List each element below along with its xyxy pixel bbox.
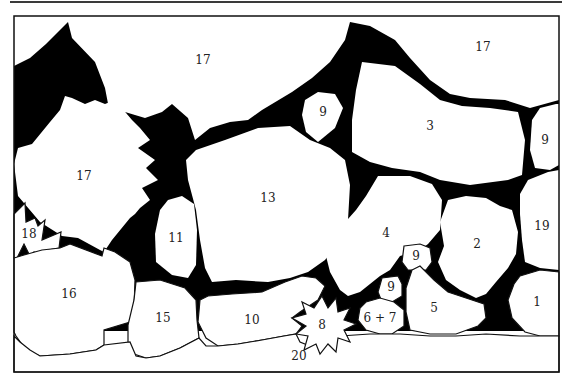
label-20: 20 <box>291 349 306 363</box>
label-1: 1 <box>533 295 541 309</box>
label-13: 13 <box>260 191 275 205</box>
label-16: 16 <box>61 287 76 301</box>
label-18: 18 <box>21 227 36 241</box>
planting-diagram: 17 17 17 9 3 9 13 11 18 4 9 2 19 16 9 15… <box>0 0 572 385</box>
label-11: 11 <box>168 231 183 245</box>
label-19: 19 <box>534 219 549 233</box>
label-9-right: 9 <box>541 133 549 147</box>
label-8: 8 <box>318 318 326 332</box>
label-17-top-left: 17 <box>195 53 210 67</box>
label-17-left: 17 <box>76 169 91 183</box>
label-9-lower: 9 <box>387 280 395 294</box>
label-2: 2 <box>473 237 481 251</box>
label-15: 15 <box>155 311 170 325</box>
label-9-top: 9 <box>319 105 327 119</box>
label-10: 10 <box>244 313 259 327</box>
label-4: 4 <box>382 226 390 240</box>
label-5: 5 <box>430 301 438 315</box>
label-17-top-right: 17 <box>475 40 490 54</box>
label-6-7: 6 + 7 <box>364 311 397 325</box>
label-9-mid: 9 <box>412 249 420 263</box>
label-3: 3 <box>426 119 434 133</box>
